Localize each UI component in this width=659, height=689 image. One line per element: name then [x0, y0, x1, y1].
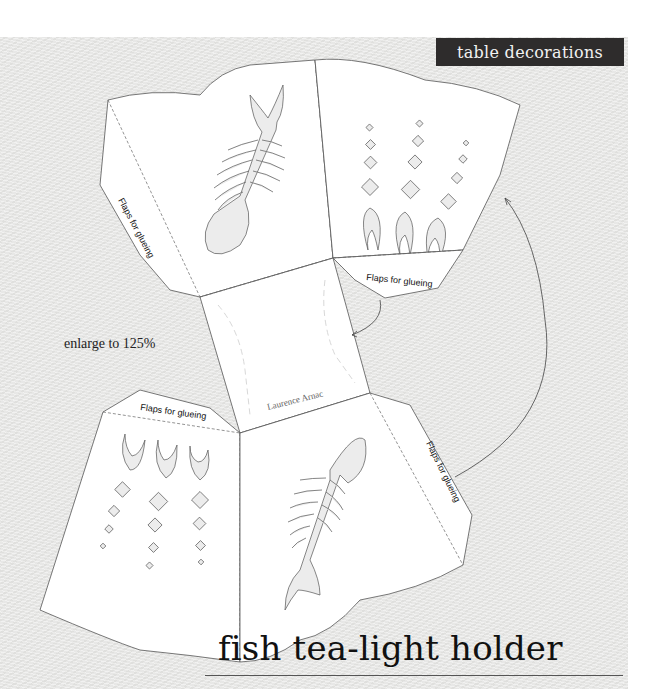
panel-top-right: [315, 59, 520, 298]
title-underline: [205, 675, 623, 676]
panel-bottom-left: [40, 390, 240, 662]
panel-bottom-right: [240, 393, 472, 662]
panel-top-left: [100, 60, 333, 297]
fold-arrow-large-icon: [455, 198, 547, 477]
enlarge-instruction: enlarge to 125%: [64, 336, 156, 352]
fold-arrow-small-icon: [352, 300, 381, 335]
page-title: fish tea-light holder: [218, 628, 623, 668]
